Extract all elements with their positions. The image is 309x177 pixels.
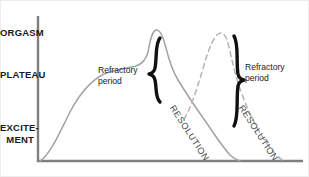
y-axis-label-excitement-line1: EXCITE- bbox=[0, 122, 39, 133]
response-curve-solid bbox=[40, 30, 240, 161]
y-axis-label-excitement-line2: MENT bbox=[6, 134, 34, 145]
y-axis-label-orgasm: ORGASM bbox=[0, 27, 34, 39]
refractory-period-label-1-line1: Refractory bbox=[98, 65, 138, 75]
y-axis-label-plateau: PLATEAU bbox=[0, 69, 34, 81]
refractory-period-label-2-line2: period bbox=[245, 73, 269, 83]
chart-canvas bbox=[0, 0, 309, 177]
refractory-period-label-2: Refractory period bbox=[245, 62, 285, 83]
refractory-bracket-1 bbox=[149, 38, 160, 102]
y-axis-label-excitement: EXCITE- MENT bbox=[0, 122, 34, 145]
refractory-period-label-2-line1: Refractory bbox=[245, 62, 285, 72]
refractory-period-label-1: Refractory period bbox=[98, 65, 138, 86]
response-cycle-figure: ORGASM PLATEAU EXCITE- MENT Refractory p… bbox=[0, 0, 309, 177]
refractory-period-label-1-line2: period bbox=[98, 76, 122, 86]
